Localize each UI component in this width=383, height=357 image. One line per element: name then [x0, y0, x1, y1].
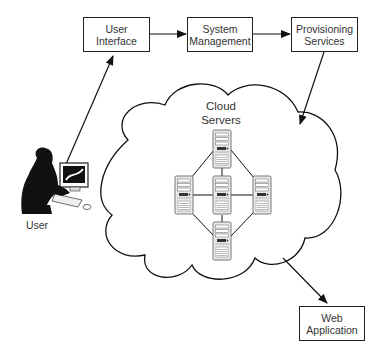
- user-label: User: [22, 219, 52, 232]
- cloud-label-1: Cloud: [188, 99, 254, 113]
- server-icon-top: [213, 130, 231, 168]
- diagram-canvas: [0, 0, 383, 357]
- web-application-label-1: Web: [321, 312, 342, 324]
- user-interface-label-1: User: [105, 23, 127, 35]
- arrow-cloud-to-webapp: [283, 258, 327, 303]
- cloud-servers-label: Cloud Servers: [188, 99, 254, 127]
- provisioning-services-box[interactable]: Provisioning Services: [291, 17, 358, 52]
- system-management-label-1: System: [202, 23, 237, 35]
- user-interface-label-2: Interface: [96, 35, 137, 47]
- server-icon-right: [253, 176, 271, 214]
- system-management-box[interactable]: System Management: [187, 17, 253, 52]
- user-interface-box[interactable]: User Interface: [83, 17, 150, 52]
- server-icon-center: [213, 176, 231, 214]
- web-application-box[interactable]: Web Application: [299, 306, 365, 341]
- user-at-computer-icon: [21, 148, 91, 214]
- cloud-label-2: Servers: [188, 113, 254, 127]
- arrow-user-to-ui: [60, 56, 113, 178]
- server-icon-bottom: [213, 222, 231, 260]
- provisioning-services-label-1: Provisioning: [296, 23, 353, 35]
- server-icon-left: [175, 176, 193, 214]
- provisioning-services-label-2: Services: [304, 35, 344, 47]
- system-management-label-2: Management: [189, 35, 250, 47]
- web-application-label-2: Application: [306, 324, 357, 336]
